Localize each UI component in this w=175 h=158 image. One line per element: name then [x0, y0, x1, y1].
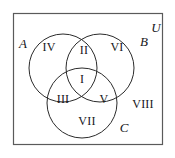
venn-diagram-figure: U A B C I II III IV V VI VII VIII: [0, 0, 175, 158]
region-label-ii: II: [80, 44, 88, 56]
region-label-iv: IV: [42, 41, 55, 53]
region-label-vii: VII: [78, 115, 95, 127]
region-label-v: V: [100, 93, 109, 105]
universal-set-label: U: [151, 21, 160, 34]
set-a-label: A: [19, 37, 27, 50]
region-label-i: I: [80, 73, 84, 85]
set-b-label: B: [140, 35, 148, 48]
set-c-label: C: [120, 121, 129, 134]
venn-diagram-canvas: [0, 0, 175, 158]
region-label-iii: III: [57, 93, 70, 105]
region-label-viii: VIII: [132, 98, 153, 110]
region-label-vi: VI: [110, 41, 123, 53]
